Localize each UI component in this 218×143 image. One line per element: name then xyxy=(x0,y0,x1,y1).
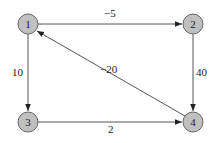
node-3: 3 xyxy=(18,112,38,132)
edge-label-4-1: −20 xyxy=(100,63,118,75)
node-4: 4 xyxy=(183,112,203,132)
node-label-1: 1 xyxy=(25,18,31,30)
node-label-3: 3 xyxy=(25,116,31,128)
node-label-4: 4 xyxy=(190,116,196,128)
node-2: 2 xyxy=(183,14,203,34)
node-label-2: 2 xyxy=(190,18,196,30)
edge-label-2-4: 40 xyxy=(196,66,208,78)
edge-label-1-3: 10 xyxy=(12,66,24,78)
edge-label-1-2: −5 xyxy=(104,7,116,19)
node-1: 1 xyxy=(18,14,38,34)
edge-label-3-4: 2 xyxy=(108,123,114,135)
graph-diagram: −5 10 40 2 −20 1 2 3 4 xyxy=(0,0,218,143)
